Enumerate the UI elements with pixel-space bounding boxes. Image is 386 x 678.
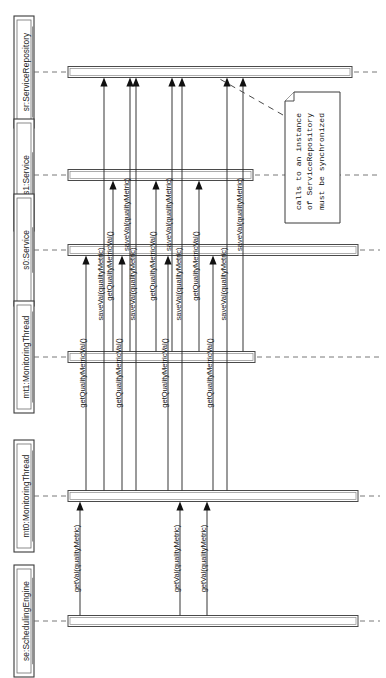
message-label-m02: getVal(qualityMetric) bbox=[172, 524, 181, 592]
lifeline-label-mt0: mt0:MonitoringThread bbox=[21, 454, 31, 537]
lifeline-label-mt1: mt1:MonitoringThread bbox=[21, 315, 31, 398]
lifeline-label-s0: s0:Service bbox=[21, 230, 31, 270]
message-m14[interactable]: getQualityMetricVal() bbox=[148, 181, 160, 352]
message-arrowhead-m17 bbox=[239, 78, 246, 87]
message-m12[interactable]: getQualityMetricVal() bbox=[105, 181, 117, 352]
message-layer: getVal(qualityMetric)getVal(qualityMetri… bbox=[72, 78, 247, 616]
message-label-m08: getQualityMetricVal() bbox=[160, 338, 169, 408]
message-label-m16: getQualityMetricVal() bbox=[191, 231, 200, 301]
message-arrowhead-m01 bbox=[76, 502, 83, 511]
message-arrowhead-m02 bbox=[176, 502, 183, 511]
message-m01[interactable]: getVal(qualityMetric) bbox=[72, 502, 84, 616]
message-arrowhead-m15 bbox=[168, 78, 175, 87]
note-line-2: of ServiceRepository bbox=[305, 113, 314, 210]
sequence-diagram-canvas: sr:ServiceRepositorys1:Services0:Service… bbox=[0, 0, 386, 678]
message-arrowhead-m16 bbox=[195, 181, 202, 190]
message-arrowhead-m04 bbox=[82, 256, 89, 265]
message-arrowhead-m12 bbox=[109, 181, 116, 190]
activation-bar-s1[interactable] bbox=[68, 170, 253, 181]
activation-bar-mt0[interactable] bbox=[68, 491, 358, 502]
message-arrowhead-m05 bbox=[100, 78, 107, 87]
note-line-3: must be synchronized bbox=[317, 113, 326, 210]
lifeline-label-s1: s1:Service bbox=[21, 155, 31, 195]
message-m10[interactable]: getQualityMetricVal() bbox=[205, 256, 217, 491]
message-label-m06: getQualityMetricVal() bbox=[114, 338, 123, 408]
message-label-m04: getQualityMetricVal() bbox=[78, 338, 87, 408]
message-label-m14: getQualityMetricVal() bbox=[148, 231, 157, 301]
message-arrowhead-m03 bbox=[203, 502, 210, 511]
message-m11[interactable]: saveVal(qualityMetric) bbox=[219, 78, 231, 491]
sequence-diagram-svg: sr:ServiceRepositorys1:Services0:Service… bbox=[0, 0, 386, 678]
message-arrowhead-m08 bbox=[164, 256, 171, 265]
message-m04[interactable]: getQualityMetricVal() bbox=[78, 256, 90, 491]
message-label-m09: saveVal(qualityMetric) bbox=[174, 247, 183, 321]
message-m17[interactable]: saveVal(qualityMetric) bbox=[235, 78, 247, 352]
message-label-m17: saveVal(qualityMetric) bbox=[235, 177, 244, 251]
message-m08[interactable]: getQualityMetricVal() bbox=[160, 256, 172, 491]
message-label-m07: saveVal(qualityMetric) bbox=[128, 247, 137, 321]
message-m16[interactable]: getQualityMetricVal() bbox=[191, 181, 203, 352]
message-label-m01: getVal(qualityMetric) bbox=[72, 524, 81, 592]
message-m02[interactable]: getVal(qualityMetric) bbox=[172, 502, 184, 616]
message-arrowhead-m14 bbox=[152, 181, 159, 190]
lifeline-label-sr: sr:ServiceRepository bbox=[21, 32, 31, 111]
message-label-m11: saveVal(qualityMetric) bbox=[219, 247, 228, 321]
message-label-m10: getQualityMetricVal() bbox=[205, 338, 214, 408]
message-label-m03: getVal(qualityMetric) bbox=[199, 524, 208, 592]
message-arrowhead-m10 bbox=[209, 256, 216, 265]
message-arrowhead-m09 bbox=[178, 78, 185, 87]
lifeline-label-se: se:SchedulingEngine bbox=[21, 581, 31, 661]
message-label-m15: saveVal(qualityMetric) bbox=[164, 177, 173, 251]
lifeline-se: se:SchedulingEngine bbox=[14, 565, 380, 677]
lifeline-mt0: mt0:MonitoringThread bbox=[14, 440, 380, 552]
message-m06[interactable]: getQualityMetricVal() bbox=[114, 256, 126, 491]
message-m03[interactable]: getVal(qualityMetric) bbox=[199, 502, 211, 616]
message-arrowhead-m07 bbox=[132, 78, 139, 87]
message-arrowhead-m13 bbox=[126, 78, 133, 87]
message-label-m05: saveVal(qualityMetric) bbox=[96, 247, 105, 321]
message-label-m12: getQualityMetricVal() bbox=[105, 231, 114, 301]
message-label-m13: saveVal(qualityMetric) bbox=[122, 177, 131, 251]
lifeline-mt1: mt1:MonitoringThread bbox=[14, 301, 380, 413]
note-line-1: calls to an instance bbox=[294, 113, 303, 210]
message-arrowhead-m06 bbox=[118, 256, 125, 265]
message-m09[interactable]: saveVal(qualityMetric) bbox=[174, 78, 186, 491]
